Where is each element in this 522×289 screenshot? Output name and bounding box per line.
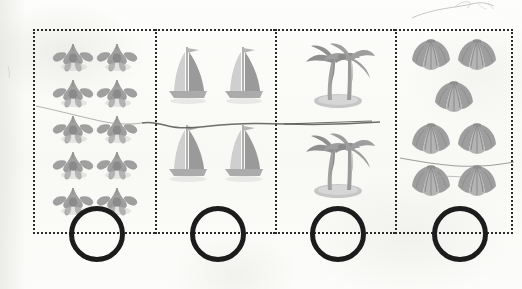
flower-icon <box>95 145 139 181</box>
seashell-icon <box>410 162 452 200</box>
cell-palm-trees[interactable] <box>275 29 395 234</box>
palm-tree-island-icon <box>296 129 376 201</box>
flower-icon <box>51 145 95 181</box>
icon-row <box>397 36 511 74</box>
icon-row <box>35 37 155 73</box>
answer-circle-shells[interactable] <box>432 206 488 262</box>
icon-row <box>397 78 511 116</box>
icon-row <box>397 162 511 200</box>
icon-row <box>397 120 511 158</box>
icon-row <box>35 145 155 181</box>
counting-table <box>33 29 513 234</box>
flower-icon <box>51 109 95 145</box>
palm-tree-island-icon <box>296 39 376 111</box>
answer-circle-flowers[interactable] <box>69 206 125 262</box>
cell-sailboats-icons <box>157 31 275 232</box>
flower-icon <box>95 37 139 73</box>
seashell-icon <box>456 36 498 74</box>
cell-sailboats[interactable] <box>155 29 275 234</box>
sailboat-icon <box>163 41 213 109</box>
flower-icon <box>51 37 95 73</box>
sailboat-icon <box>219 41 269 109</box>
cell-shells-icons <box>397 31 511 232</box>
icon-row <box>157 119 275 187</box>
cell-shells[interactable] <box>395 29 513 234</box>
answer-circle-palm-trees[interactable] <box>310 206 366 262</box>
counting-worksheet <box>0 0 522 289</box>
seashell-icon <box>410 120 452 158</box>
sailboat-icon <box>163 119 213 187</box>
flower-icon <box>95 73 139 109</box>
paper-edge-shadow <box>0 0 26 289</box>
answer-circle-sailboats[interactable] <box>190 206 246 262</box>
seashell-icon <box>456 162 498 200</box>
icon-row <box>157 41 275 109</box>
flower-icon <box>51 73 95 109</box>
seashell-icon <box>410 36 452 74</box>
icon-row <box>277 129 395 201</box>
icon-row <box>277 39 395 111</box>
sailboat-icon <box>219 119 269 187</box>
cell-flowers-icons <box>35 31 155 232</box>
icon-row <box>35 109 155 145</box>
seashell-icon <box>433 78 475 116</box>
cell-flowers[interactable] <box>33 29 155 234</box>
seashell-icon <box>456 120 498 158</box>
icon-row <box>35 73 155 109</box>
scribble-top-right <box>412 2 494 18</box>
cell-palm-trees-icons <box>277 31 395 232</box>
scribble-left-margin <box>8 66 9 78</box>
flower-icon <box>95 109 139 145</box>
